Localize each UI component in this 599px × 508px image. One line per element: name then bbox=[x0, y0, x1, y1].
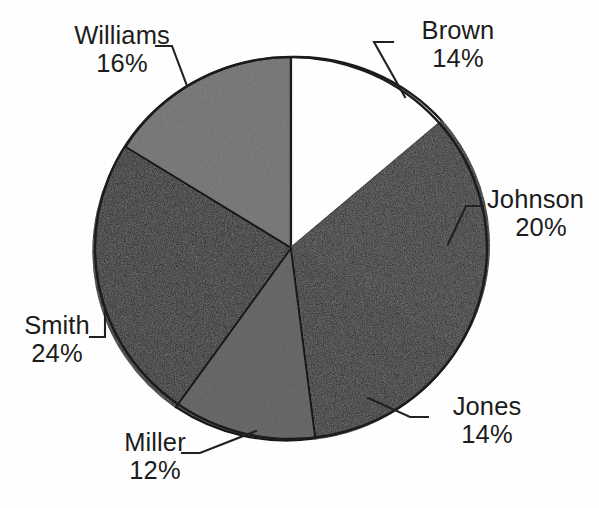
pie-label-smith-value: 24% bbox=[2, 339, 112, 368]
pie-label-smith: Smith 24% bbox=[2, 311, 112, 367]
pie-label-jones-name: Jones bbox=[432, 392, 542, 421]
pie-label-jones: Jones 14% bbox=[432, 392, 542, 448]
pie-label-jones-value: 14% bbox=[432, 420, 542, 449]
pie-label-miller: Miller 12% bbox=[100, 428, 210, 484]
pie-label-brown-name: Brown bbox=[398, 16, 518, 45]
pie-label-johnson: Johnson 20% bbox=[487, 185, 599, 241]
pie-label-williams: Williams 16% bbox=[52, 21, 192, 77]
pie-label-brown: Brown 14% bbox=[398, 16, 518, 72]
pie-slices bbox=[93, 57, 488, 441]
pie-label-smith-name: Smith bbox=[2, 311, 112, 340]
pie-label-johnson-name: Johnson bbox=[487, 185, 599, 214]
pie-label-williams-value: 16% bbox=[52, 49, 192, 78]
pie-chart-figure: Brown 14% Johnson 20% Jones 14% Miller 1… bbox=[0, 0, 599, 508]
pie-label-miller-name: Miller bbox=[100, 428, 210, 457]
pie-label-brown-value: 14% bbox=[398, 44, 518, 73]
pie-label-williams-name: Williams bbox=[52, 21, 192, 50]
pie-label-johnson-value: 20% bbox=[487, 213, 599, 242]
pie-label-miller-value: 12% bbox=[100, 456, 210, 485]
